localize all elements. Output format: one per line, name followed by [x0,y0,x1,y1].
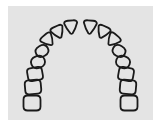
tooth-r1-incisor [83,20,97,34]
tooth-l1-incisor [64,20,78,34]
dental-arch [0,0,160,128]
tooth-r8-molar [121,96,138,111]
tooth-l8-molar [24,96,41,111]
